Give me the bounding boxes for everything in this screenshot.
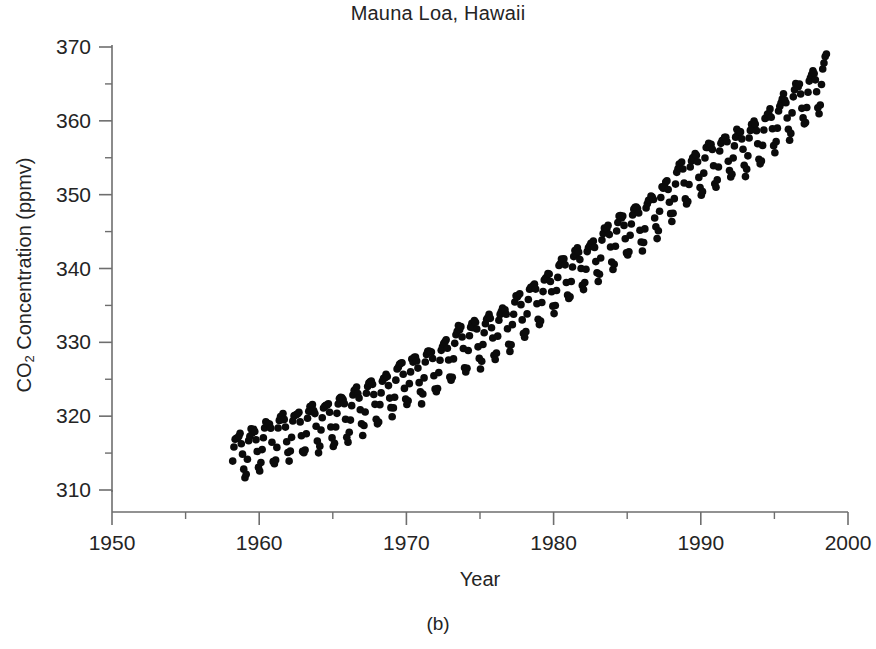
- data-point: [383, 373, 391, 381]
- data-point: [295, 408, 303, 416]
- data-point: [361, 408, 369, 416]
- data-point: [516, 290, 524, 298]
- data-point: [344, 438, 352, 446]
- data-point: [256, 467, 264, 475]
- data-point: [575, 248, 583, 256]
- data-point: [477, 365, 485, 373]
- data-point: [398, 359, 406, 367]
- data-point: [478, 357, 486, 365]
- data-point: [539, 288, 547, 296]
- data-point: [569, 263, 577, 271]
- data-point: [348, 402, 356, 410]
- data-point: [414, 364, 422, 372]
- data-point: [561, 261, 569, 269]
- data-point: [296, 418, 304, 426]
- data-point: [782, 99, 790, 107]
- data-point: [407, 368, 415, 376]
- data-point: [744, 152, 752, 160]
- y-tick-label: 370: [56, 35, 91, 58]
- data-point: [626, 231, 634, 239]
- data-point: [463, 364, 471, 372]
- data-point: [491, 356, 499, 364]
- data-point: [628, 220, 636, 228]
- data-point: [274, 424, 282, 432]
- data-point: [552, 302, 560, 310]
- data-point: [813, 88, 821, 96]
- data-point: [581, 279, 589, 287]
- data-point: [745, 134, 753, 142]
- data-point: [376, 401, 384, 409]
- ticks-group: [99, 47, 848, 525]
- data-point: [510, 310, 518, 318]
- data-point: [369, 381, 377, 389]
- data-point: [818, 81, 826, 89]
- data-point: [655, 227, 663, 235]
- data-point: [713, 176, 721, 184]
- data-point: [257, 459, 265, 467]
- data-point: [789, 93, 797, 101]
- data-point: [566, 293, 574, 301]
- data-point: [816, 101, 824, 109]
- y-tick-label: 320: [56, 404, 91, 427]
- data-point: [332, 423, 340, 431]
- data-point: [251, 428, 259, 436]
- data-point: [421, 358, 429, 366]
- data-point: [399, 370, 407, 378]
- data-point: [466, 332, 474, 340]
- data-point: [448, 373, 456, 381]
- data-point: [823, 50, 831, 58]
- data-point: [554, 274, 562, 282]
- data-point: [547, 278, 555, 286]
- scatter-plot-canvas: 3103203303403503603701950196019701980199…: [0, 0, 876, 649]
- data-point: [604, 222, 612, 230]
- data-point: [694, 158, 702, 166]
- data-point: [237, 440, 245, 448]
- data-point: [596, 270, 604, 278]
- data-point: [641, 225, 649, 233]
- data-point: [771, 149, 779, 157]
- data-point: [326, 408, 334, 416]
- data-point: [267, 424, 275, 432]
- y-tick-label: 330: [56, 330, 91, 353]
- data-point: [260, 434, 268, 442]
- data-point: [545, 270, 553, 278]
- data-point: [419, 390, 427, 398]
- data-point: [457, 323, 465, 331]
- data-point: [525, 296, 533, 304]
- data-point: [553, 287, 561, 295]
- data-point: [428, 348, 436, 356]
- data-point: [723, 138, 731, 146]
- data-point: [537, 317, 545, 325]
- data-point: [347, 416, 355, 424]
- y-tick-label: 360: [56, 109, 91, 132]
- data-point: [597, 254, 605, 262]
- data-point: [353, 383, 361, 391]
- data-points-group: [229, 50, 830, 481]
- data-point: [699, 188, 707, 196]
- data-point: [804, 88, 812, 96]
- data-point: [472, 319, 480, 327]
- data-point: [229, 457, 237, 465]
- data-point: [230, 443, 238, 451]
- data-point: [458, 333, 466, 341]
- data-point: [788, 109, 796, 117]
- data-point: [812, 76, 820, 84]
- data-point: [625, 248, 633, 256]
- data-point: [619, 212, 627, 220]
- data-point: [774, 124, 782, 132]
- data-point: [538, 299, 546, 307]
- figure-panel: Mauna Loa, Hawaii CO2 Concentration (ppm…: [0, 0, 876, 649]
- data-point: [656, 207, 664, 215]
- data-point: [753, 127, 761, 135]
- data-point: [450, 355, 458, 363]
- data-point: [731, 142, 739, 150]
- data-point: [582, 265, 590, 273]
- data-point: [786, 136, 794, 144]
- data-point: [360, 422, 368, 430]
- data-point: [311, 410, 319, 418]
- data-point: [487, 315, 495, 323]
- data-point: [678, 158, 686, 166]
- data-point: [315, 449, 323, 457]
- data-point: [797, 90, 805, 98]
- data-point: [739, 146, 747, 154]
